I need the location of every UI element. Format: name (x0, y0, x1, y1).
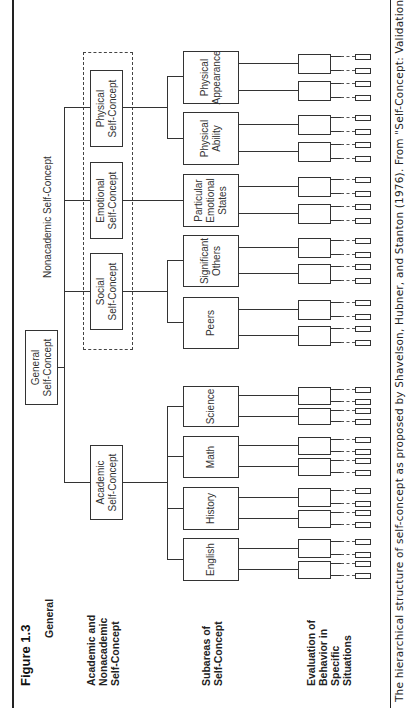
evaluation-box (298, 115, 331, 135)
situation-box (355, 252, 371, 258)
situation-box (355, 314, 371, 320)
dashed-connector (341, 461, 355, 462)
dashed-connector (341, 542, 355, 543)
situation-box (355, 191, 371, 197)
dashed-connector (341, 452, 355, 453)
situation-box (355, 489, 371, 495)
situation-box (355, 204, 371, 210)
dashed-connector (341, 422, 355, 423)
connector (331, 266, 341, 267)
evaluation-box (298, 408, 331, 426)
dashed-connector (341, 576, 355, 577)
dashed-connector (341, 117, 355, 118)
connector (331, 220, 341, 221)
situation-box (355, 552, 371, 558)
connector (331, 131, 341, 132)
dashed-connector (341, 179, 355, 180)
evaluation-box (298, 561, 331, 580)
connector (331, 193, 341, 194)
connector (239, 497, 298, 498)
connector (239, 446, 298, 447)
connector (239, 273, 298, 274)
dashed-connector (341, 316, 355, 317)
connector (331, 563, 341, 564)
evaluation-box (298, 326, 331, 346)
connector (331, 512, 341, 513)
figure-caption: The hierarchical structure of self-conce… (393, 0, 405, 702)
evaluation-box (298, 489, 331, 508)
dashed-connector (341, 193, 355, 194)
situation-box (355, 326, 371, 332)
evaluation-box (298, 388, 331, 406)
evaluation-box (298, 238, 331, 258)
connector (331, 328, 341, 329)
connector (239, 90, 298, 91)
connector (331, 240, 341, 241)
connector (239, 213, 298, 214)
dashed-connector (341, 525, 355, 526)
dashed-connector (341, 206, 355, 207)
situation-box (355, 450, 371, 456)
connector (331, 117, 341, 118)
connector (331, 473, 341, 474)
dashed-connector (341, 554, 355, 555)
situation-box (355, 177, 371, 183)
situation-box (355, 501, 371, 507)
situation-box (355, 218, 371, 224)
connector (331, 542, 341, 543)
situation-box (355, 95, 371, 101)
evaluation-box (298, 54, 331, 74)
situation-box (355, 471, 371, 477)
connector (239, 518, 298, 519)
connector (239, 309, 298, 310)
connector (239, 186, 298, 187)
connector (239, 548, 298, 549)
dashed-connector (341, 220, 355, 221)
connector (331, 554, 341, 555)
connector (331, 316, 341, 317)
situation-box (355, 340, 371, 346)
situation-box (355, 81, 371, 87)
evaluation-box (298, 204, 331, 224)
connector (331, 342, 341, 343)
dashed-connector (341, 56, 355, 57)
dashed-connector (341, 254, 355, 255)
connector (331, 158, 341, 159)
connector (331, 70, 341, 71)
situation-box (355, 142, 371, 148)
evaluation-box (298, 142, 331, 162)
connector (239, 395, 298, 396)
connector (331, 302, 341, 303)
evaluation-box (298, 510, 331, 529)
evaluation-box (298, 300, 331, 320)
dashed-connector (341, 280, 355, 281)
dashed-connector (341, 401, 355, 402)
connector (331, 97, 341, 98)
situation-box (355, 278, 371, 284)
connector (331, 525, 341, 526)
connector (331, 83, 341, 84)
connector (331, 491, 341, 492)
dashed-connector (341, 390, 355, 391)
connector (239, 569, 298, 570)
connector (239, 335, 298, 336)
connector (239, 416, 298, 417)
situation-box (355, 68, 371, 74)
connector (239, 151, 298, 152)
situation-box (355, 54, 371, 60)
connector (239, 467, 298, 468)
evaluation-box (298, 540, 331, 559)
connector (331, 440, 341, 441)
situation-box (355, 115, 371, 121)
evaluation-box (298, 81, 331, 101)
connector (239, 124, 298, 125)
connector (331, 144, 341, 145)
connector (239, 247, 298, 248)
rotated-figure-page: Figure 1.3 General Academic and Nonacade… (0, 0, 406, 708)
situation-box (355, 399, 371, 405)
connector (331, 280, 341, 281)
dashed-connector (341, 266, 355, 267)
connector (331, 576, 341, 577)
dashed-connector (341, 97, 355, 98)
evaluation-box (298, 459, 331, 477)
